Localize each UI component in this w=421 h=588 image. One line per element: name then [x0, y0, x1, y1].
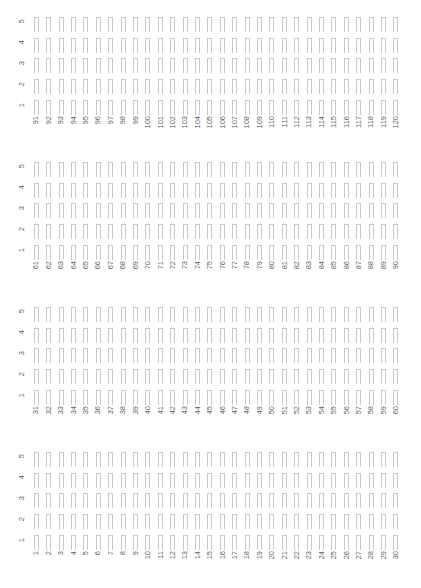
bar-cell [204, 11, 216, 32]
empty-bar-outline [331, 390, 336, 405]
empty-bar-outline [46, 328, 51, 343]
bar-cell [253, 177, 265, 198]
empty-bar-outline [245, 203, 250, 218]
bar-cell [315, 11, 327, 32]
bar-cell [92, 94, 104, 115]
bar-cell [142, 508, 154, 529]
bar-cell [390, 529, 402, 550]
empty-bar-outline [381, 100, 386, 115]
column-axis-tick: 45 [204, 406, 216, 414]
bar-cell [154, 177, 166, 198]
bar-cell [30, 73, 42, 94]
empty-bar-outline [34, 203, 39, 218]
column-axis-tick: 19 [253, 551, 265, 559]
empty-bar-outline [46, 493, 51, 508]
row-axis-tick-label: 5 [18, 164, 26, 168]
empty-bar-outline [344, 390, 349, 405]
column-axis-tick: 58 [365, 406, 377, 414]
bar-cell [92, 446, 104, 467]
empty-bar-outline [121, 493, 126, 508]
bar-cell [104, 488, 116, 509]
empty-bar-outline [245, 224, 250, 239]
empty-bar-outline [331, 245, 336, 260]
bar-cell [129, 11, 141, 32]
empty-bar-outline [83, 183, 88, 198]
bar-cell [291, 32, 303, 53]
column-axis-tick-label: 22 [293, 551, 301, 559]
bar-cell [390, 156, 402, 177]
empty-bar-outline [282, 58, 287, 73]
bar-cell [241, 446, 253, 467]
bar-cell [166, 467, 178, 488]
column-axis-tick-label: 11 [157, 551, 165, 559]
column-axis-tick: 15 [204, 551, 216, 559]
column-axis-tick: 30 [390, 551, 402, 559]
empty-bar-outline [158, 493, 163, 508]
bar-cell [154, 156, 166, 177]
bar-cell [55, 446, 67, 467]
empty-bar-outline [145, 245, 150, 260]
empty-bar-outline [34, 307, 39, 322]
empty-bar-outline [121, 203, 126, 218]
empty-bar-outline [121, 348, 126, 363]
bar-cell [365, 488, 377, 509]
column-axis-tick-label: 48 [243, 406, 251, 414]
empty-bar-outline [282, 307, 287, 322]
bar-cell [42, 156, 54, 177]
column-axis-tick: 32 [42, 406, 54, 414]
bar-cell [30, 53, 42, 74]
column-axis-tick-label: 110 [268, 116, 276, 128]
bar-cell [80, 94, 92, 115]
empty-bar-outline [158, 369, 163, 384]
bar-grid-row [30, 32, 402, 53]
empty-bar-outline [356, 390, 361, 405]
empty-bar-outline [344, 473, 349, 488]
bar-cell [377, 529, 389, 550]
bar-cell [328, 343, 340, 364]
empty-bar-outline [282, 224, 287, 239]
empty-bar-outline [207, 17, 212, 32]
empty-bar-outline [121, 38, 126, 53]
bar-cell [142, 239, 154, 260]
empty-bar-outline [307, 224, 312, 239]
column-axis-tick: 98 [117, 116, 129, 124]
column-axis-tick-label: 60 [392, 406, 400, 414]
bar-cell [340, 11, 352, 32]
empty-bar-outline [133, 473, 138, 488]
bar-cell [377, 198, 389, 219]
bar-cell [92, 322, 104, 343]
column-axis-tick-label: 49 [256, 406, 264, 414]
empty-bar-outline [307, 245, 312, 260]
row-axis-tick-label: 4 [18, 330, 26, 334]
bar-cell [278, 198, 290, 219]
bar-cell [204, 446, 216, 467]
row-axis-tick: 2 [0, 218, 30, 239]
bar-cell [328, 156, 340, 177]
bar-cell [179, 218, 191, 239]
column-axis-tick-label: 58 [367, 406, 375, 414]
bar-cell [216, 343, 228, 364]
empty-bar-outline [331, 369, 336, 384]
empty-bar-outline [108, 390, 113, 405]
bar-cell [340, 94, 352, 115]
bar-cell [303, 322, 315, 343]
bar-cell [216, 177, 228, 198]
bar-cell [241, 363, 253, 384]
empty-bar-outline [34, 493, 39, 508]
column-axis-tick-label: 13 [181, 551, 189, 559]
column-axis-tick: 37 [104, 406, 116, 414]
bar-cell [365, 177, 377, 198]
column-axis-tick: 16 [216, 551, 228, 559]
column-axis-tick: 60 [390, 406, 402, 414]
empty-bar-outline [282, 535, 287, 550]
empty-bar-outline [59, 245, 64, 260]
empty-bar-outline [294, 514, 299, 529]
column-axis-tick: 106 [216, 116, 228, 129]
bar-cell [315, 446, 327, 467]
column-axis-tick-label: 62 [45, 261, 53, 269]
empty-bar-outline [71, 493, 76, 508]
bar-cell [104, 177, 116, 198]
empty-bar-outline [220, 369, 225, 384]
column-axis-tick-label: 109 [256, 116, 264, 129]
bar-cell [365, 11, 377, 32]
